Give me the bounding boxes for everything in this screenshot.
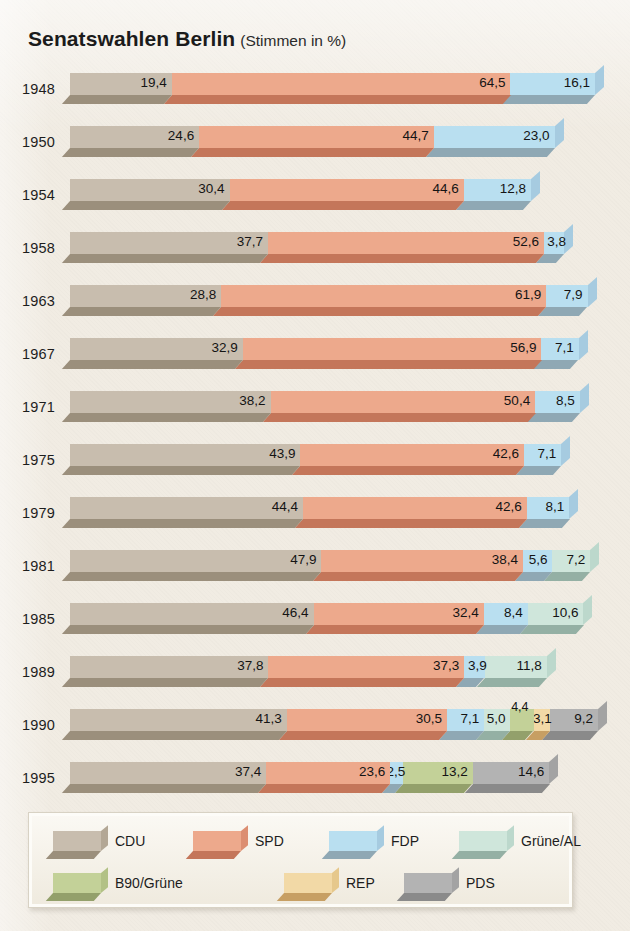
- segment-bevel: [258, 784, 390, 793]
- legend-swatch-gruene_al: [459, 831, 507, 851]
- chart-page: Senatswahlen Berlin(Stimmen in %) 194819…: [0, 0, 630, 931]
- legend-item-cdu[interactable]: CDU: [53, 821, 145, 861]
- segment-value-label: 44,7: [403, 128, 429, 143]
- bar-segment-fdp: 5,6: [523, 550, 552, 572]
- segment-value-label: 23,0: [523, 128, 549, 143]
- segment-value-label: 4,4: [511, 700, 528, 714]
- legend-item-fdp[interactable]: FDP: [329, 821, 419, 861]
- segment-bevel: [62, 254, 268, 263]
- bar-segment-spd: 50,4: [271, 391, 536, 413]
- row-year-label: 1995: [22, 770, 66, 786]
- bar-segment-cdu: 43,9: [70, 444, 300, 466]
- bar-end-cap: [579, 338, 588, 360]
- segment-value-label: 37,4: [235, 764, 261, 779]
- legend-swatch-face: [53, 831, 101, 851]
- legend-swatch-bevel: [186, 851, 241, 859]
- legend-row-top: CDUSPDFDPGrüne/AL: [29, 821, 572, 861]
- end-cap-side: [549, 754, 558, 784]
- segment-bevel: [544, 572, 590, 581]
- bar-segment-cdu: 19,4: [70, 73, 172, 95]
- bar-segment-fdp: 16,1: [510, 73, 595, 95]
- bar-segment-cdu: 38,2: [70, 391, 271, 413]
- row-year-label: 1981: [22, 558, 66, 574]
- legend-swatch-bevel: [452, 851, 507, 859]
- segment-value-label: 3,8: [547, 234, 566, 249]
- bar-segment-fdp: 23,0: [434, 126, 555, 148]
- chart-title-subtitle: (Stimmen in %): [240, 32, 346, 49]
- bar-segment-cdu: 41,3: [70, 709, 287, 731]
- legend-item-pds[interactable]: PDS: [404, 863, 495, 903]
- bar-segment-gruene_al: 5,0: [484, 709, 510, 731]
- legend-swatch-bevel: [322, 851, 377, 859]
- segment-value-label: 12,8: [500, 181, 526, 196]
- bar-segment-fdp: 12,8: [464, 179, 531, 201]
- bar-end-cap: [555, 126, 564, 148]
- segment-value-label: 11,8: [516, 658, 541, 673]
- segment-bevel: [502, 95, 595, 104]
- segment-value-label: 43,9: [269, 446, 295, 461]
- bar-end-cap: [561, 444, 570, 466]
- segment-bevel: [313, 572, 523, 581]
- row-year-label: 1950: [22, 134, 66, 150]
- segment-value-label: 8,5: [556, 393, 575, 408]
- segment-bevel: [477, 678, 547, 687]
- segment-face: [221, 285, 546, 307]
- bar-end-cap: [595, 73, 604, 95]
- end-cap-side: [595, 65, 604, 95]
- segment-face: [271, 391, 536, 413]
- chart-legend: CDUSPDFDPGrüne/AL B90/GrüneREPPDS: [28, 812, 573, 908]
- row-year-label: 1948: [22, 81, 66, 97]
- segment-bevel: [191, 148, 434, 157]
- legend-label-spd: SPD: [255, 833, 284, 849]
- legend-item-gruene_al[interactable]: Grüne/AL: [459, 821, 581, 861]
- end-cap-side: [561, 436, 570, 466]
- segment-value-label: 7,2: [566, 552, 585, 567]
- end-cap-side: [590, 542, 599, 572]
- legend-label-cdu: CDU: [115, 833, 145, 849]
- legend-item-rep[interactable]: REP: [284, 863, 375, 903]
- end-cap-side: [547, 648, 556, 678]
- segment-value-label: 7,1: [538, 446, 557, 461]
- end-cap-side: [598, 701, 607, 731]
- bar-segment-spd: 61,9: [221, 285, 546, 307]
- legend-swatch-bevel: [397, 893, 452, 901]
- bar-segment-spd: 44,6: [230, 179, 464, 201]
- legend-swatch-face: [404, 873, 452, 893]
- segment-bevel: [305, 625, 483, 634]
- row-year-label: 1971: [22, 399, 66, 415]
- legend-item-b90[interactable]: B90/Grüne: [53, 863, 183, 903]
- legend-swatch-cdu: [53, 831, 101, 851]
- bar-segment-spd: 56,9: [243, 338, 542, 360]
- bar-segment-cdu: 24,6: [70, 126, 199, 148]
- segment-face: [243, 338, 542, 360]
- row-year-label: 1958: [22, 240, 66, 256]
- bar-segment-b90: 13,2: [403, 762, 472, 784]
- segment-bevel: [395, 784, 472, 793]
- segment-face: [300, 444, 524, 466]
- segment-bevel: [542, 731, 598, 740]
- bar-segment-cdu: 32,9: [70, 338, 243, 360]
- segment-face: [303, 497, 527, 519]
- segment-value-label: 42,6: [495, 499, 521, 514]
- bar-segment-spd: 42,6: [300, 444, 524, 466]
- chart-row: 199041,330,57,15,04,43,19,2: [0, 704, 630, 757]
- bar-segment-spd: 42,6: [303, 497, 527, 519]
- bar-end-cap: [531, 179, 540, 201]
- legend-swatch-side: [507, 825, 514, 851]
- segment-value-label: 30,5: [416, 711, 442, 726]
- bar-segment-spd: 52,6: [268, 232, 544, 254]
- segment-value-label: 44,6: [432, 181, 458, 196]
- segment-bevel: [279, 731, 447, 740]
- bar-segment-gruene_al: 11,8: [485, 656, 547, 678]
- segment-bevel: [213, 307, 546, 316]
- segment-face: [70, 497, 303, 519]
- segment-value-label: 61,9: [515, 287, 541, 302]
- row-year-label: 1989: [22, 664, 66, 680]
- legend-item-spd[interactable]: SPD: [193, 821, 284, 861]
- bar-segment-cdu: 37,8: [70, 656, 268, 678]
- legend-label-pds: PDS: [466, 875, 495, 891]
- segment-bevel: [62, 784, 266, 793]
- segment-bevel: [260, 254, 544, 263]
- segment-value-label: 52,6: [513, 234, 539, 249]
- segment-bevel: [292, 466, 524, 475]
